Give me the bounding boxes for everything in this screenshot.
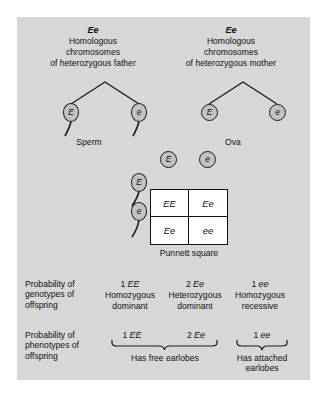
punnett-cell-1-0: Ee: [151, 217, 189, 244]
genotype-column-2-count: 2: [186, 279, 191, 289]
father-gamete-sperm-e: e: [131, 103, 147, 122]
phenotype-group-2-desc-line-2: earlobes: [227, 363, 297, 373]
genotype-column-2-desc-line-2: dominant: [163, 301, 227, 311]
punnett-cell-0-1: Ee: [189, 190, 227, 217]
father-description-line-3: of heterozygous father: [23, 58, 163, 69]
genotype-column-3-count: 1: [251, 279, 256, 289]
punnett-row-header-e-tail: [129, 219, 147, 239]
mother-genotype: Ee: [161, 25, 301, 36]
mother-block: Ee Homologous chromosomes of heterozygou…: [161, 25, 301, 69]
phenotype-group-2-brace: [236, 340, 288, 351]
genotype-column-2-desc-line-1: Heterozygous: [163, 290, 227, 300]
father-gamete-sperm-e-allele: e: [137, 108, 142, 116]
punnett-row-header-e-allele: e: [137, 207, 142, 215]
genotype-probability-label-line-3: offspring: [25, 300, 75, 310]
punnett-row-header-E: E: [131, 173, 147, 192]
genotype-probability-label-line-1: Probability of: [25, 279, 75, 289]
father-gamete-sperm-E-tail: [63, 120, 81, 138]
mother-gamete-ovum-e-allele: e: [275, 108, 280, 116]
phenotype-probability-label: Probability of phenotypes of offspring: [25, 330, 79, 361]
phenotype-probability-label-line-1: Probability of: [25, 330, 79, 340]
punnett-row-header-E-allele: E: [136, 178, 142, 186]
phenotype-group-1-desc-line-1: Has free earlobes: [127, 353, 203, 363]
genotype-column-1-desc-line-1: Homozygous: [99, 290, 161, 300]
punnett-square-figure-panel: Ee Homologous chromosomes of heterozygou…: [17, 17, 310, 380]
punnett-row-header-e: e: [131, 202, 147, 221]
genotype-column-3-desc-line-1: Homozygous: [229, 290, 291, 300]
phenotype-group-1-description: Has free earlobes: [127, 353, 203, 363]
father-description-line-2: chromosomes: [23, 47, 163, 58]
genotype-column-1: 1 EE Homozygous dominant: [99, 279, 161, 311]
phenotype-group-1-brace: [111, 340, 218, 351]
mother-description-line-1: Homologous: [161, 36, 301, 47]
genotype-probability-label-line-2: genotypes of: [25, 289, 75, 299]
phenotype-group-1-term-1-count: 1: [122, 330, 127, 340]
phenotype-group-2-desc-line-1: Has attached: [227, 353, 297, 363]
mother-description-line-3: of heterozygous mother: [161, 58, 301, 69]
phenotype-probability-label-line-3: offspring: [25, 351, 79, 361]
genotype-column-2: 2 Ee Heterozygous dominant: [163, 279, 227, 311]
genotype-column-1-genotype: EE: [128, 279, 140, 289]
phenotype-group-1-term-2-genotype: Ee: [194, 330, 205, 340]
punnett-cell-1-1: ee: [189, 217, 227, 244]
genotype-column-1-count: 1: [120, 279, 125, 289]
genotype-column-2-genotype: Ee: [193, 279, 204, 289]
genotype-column-1-desc-line-2: dominant: [99, 301, 161, 311]
father-genotype: Ee: [23, 25, 163, 36]
mother-gamete-ovum-e: e: [269, 104, 286, 121]
phenotype-group-2-term-1-count: 1: [253, 330, 258, 340]
punnett-column-header-e-allele: e: [205, 155, 210, 163]
father-block: Ee Homologous chromosomes of heterozygou…: [23, 25, 163, 69]
ova-label: Ova: [203, 137, 263, 148]
punnett-cell-0-0: EE: [151, 190, 189, 217]
father-gamete-sperm-E-allele: E: [68, 108, 74, 116]
genotype-column-3-desc-line-2: recessive: [229, 301, 291, 311]
father-description-line-1: Homologous: [23, 36, 163, 47]
phenotype-group-2-term-1-genotype: ee: [261, 330, 271, 340]
mother-description-line-2: chromosomes: [161, 47, 301, 58]
father-chromosome-connector: [67, 79, 143, 105]
phenotype-group-2-description: Has attached earlobes: [227, 353, 297, 374]
punnett-square-grid: EE Ee Ee ee: [150, 189, 228, 245]
punnett-column-header-E-allele: E: [166, 155, 172, 163]
genotype-probability-label: Probability of genotypes of offspring: [25, 279, 75, 310]
punnett-square-caption: Punnett square: [139, 248, 239, 259]
mother-gamete-ovum-E-allele: E: [207, 108, 213, 116]
phenotype-group-1-term-1-genotype: EE: [130, 330, 142, 340]
punnett-column-header-e: e: [199, 151, 216, 168]
sperm-label: Sperm: [59, 137, 119, 148]
phenotype-group-1-term-2-count: 2: [187, 330, 192, 340]
father-gamete-sperm-E: E: [63, 103, 79, 122]
genotype-column-3: 1 ee Homozygous recessive: [229, 279, 291, 311]
genotype-column-3-genotype: ee: [259, 279, 269, 289]
phenotype-probability-label-line-2: phenotypes of: [25, 340, 79, 350]
father-gamete-sperm-e-tail: [131, 120, 149, 138]
mother-chromosome-connector: [205, 79, 281, 105]
punnett-column-header-E: E: [160, 151, 177, 168]
mother-gamete-ovum-E: E: [201, 104, 218, 121]
